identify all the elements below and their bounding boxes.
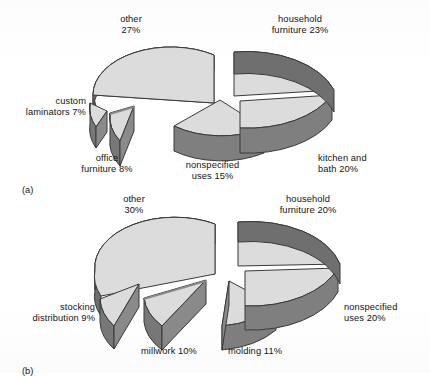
label-a-household-furniture: household furniture 23% (255, 14, 345, 36)
slice-b-millwork (144, 280, 206, 350)
slice-a-custom-laminators (90, 103, 107, 148)
label-b-molding: molding 11% (216, 346, 294, 357)
label-b-stocking-distribution: stocking distribution 9% (0, 302, 95, 324)
pie-chart-panel-b: other 30% household furniture 20% stocki… (0, 186, 430, 373)
pie-chart-panel-a: other 27% household furniture 23% custom… (0, 0, 430, 200)
label-a-nonspecified-uses: nonspecified uses 15% (170, 160, 255, 182)
panel-b-tag: (b) (22, 366, 33, 376)
label-b-other: other 30% (104, 194, 164, 216)
slice-b-household-furniture (238, 221, 340, 286)
pie-b-graphic (0, 186, 430, 373)
label-b-household-furniture: household furniture 20% (262, 194, 354, 216)
label-a-kitchen-and-bath: kitchen and bath 20% (318, 153, 408, 175)
label-a-custom-laminators: custom laminators 7% (0, 96, 86, 118)
label-a-office-furniture: office furniture 8% (67, 153, 147, 175)
label-a-other: other 27% (101, 14, 161, 36)
slice-a-household-furniture (234, 51, 334, 118)
label-b-millwork: millwork 10% (130, 346, 208, 357)
label-b-nonspecified-uses: nonspecified uses 20% (344, 302, 430, 324)
